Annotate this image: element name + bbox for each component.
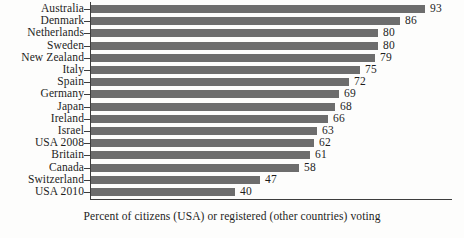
bar — [91, 78, 349, 86]
bar — [91, 103, 335, 111]
bar-value-label: 75 — [365, 63, 377, 76]
category-label: Ireland — [0, 112, 84, 125]
bar — [91, 5, 425, 13]
bar-value-label: 58 — [304, 161, 316, 174]
bar — [91, 42, 378, 50]
bar-value-label: 47 — [265, 173, 277, 186]
axis-tick — [84, 180, 91, 181]
bar-value-label: 66 — [333, 112, 345, 125]
bar-value-label: 80 — [383, 39, 395, 52]
bar — [91, 29, 378, 37]
bar — [91, 139, 314, 147]
axis-tick — [84, 168, 91, 169]
category-label: Netherlands — [0, 26, 84, 39]
axis-tick — [84, 46, 91, 47]
bar-value-label: 68 — [340, 100, 352, 113]
bar-value-label: 80 — [383, 26, 395, 39]
axis-tick — [84, 94, 91, 95]
axis-caption: Percent of citizens (USA) or registered … — [0, 210, 464, 222]
axis-tick — [84, 192, 91, 193]
axis-tick — [84, 107, 91, 108]
value-axis-baseline — [90, 199, 452, 200]
bar-value-label: 61 — [315, 148, 327, 161]
axis-tick — [84, 131, 91, 132]
bar-value-label: 79 — [380, 51, 392, 64]
category-label: Britain — [0, 148, 84, 161]
category-label: Canada — [0, 161, 84, 174]
bar — [91, 66, 360, 74]
category-label: Switzerland — [0, 173, 84, 186]
bar — [91, 17, 400, 25]
axis-tick — [84, 58, 91, 59]
category-label: USA 2008 — [0, 136, 84, 149]
category-label: Spain — [0, 75, 84, 88]
bar — [91, 176, 260, 184]
bar-value-label: 63 — [322, 124, 334, 137]
category-label: New Zealand — [0, 51, 84, 64]
category-label: Italy — [0, 63, 84, 76]
bar — [91, 188, 235, 196]
axis-tick — [84, 143, 91, 144]
bar-value-label: 72 — [354, 75, 366, 88]
axis-tick — [84, 21, 91, 22]
bar — [91, 127, 317, 135]
bar-chart: Australia93Denmark86Netherlands80Sweden8… — [0, 0, 464, 238]
bar-row: USA 201040 — [0, 187, 464, 199]
category-label: Japan — [0, 100, 84, 113]
category-label: USA 2010 — [0, 185, 84, 198]
category-label: Germany — [0, 87, 84, 100]
bar — [91, 90, 339, 98]
axis-tick — [84, 82, 91, 83]
bar — [91, 54, 375, 62]
category-label: Sweden — [0, 39, 84, 52]
bar — [91, 115, 328, 123]
axis-tick — [84, 9, 91, 10]
axis-tick — [84, 70, 91, 71]
bar-value-label: 69 — [344, 87, 356, 100]
bar-value-label: 93 — [430, 2, 442, 15]
axis-tick — [84, 155, 91, 156]
bar-value-label: 40 — [240, 185, 252, 198]
plot-area: Australia93Denmark86Netherlands80Sweden8… — [0, 0, 464, 205]
bar-value-label: 62 — [319, 136, 331, 149]
bar-value-label: 86 — [405, 14, 417, 27]
bar — [91, 151, 310, 159]
category-label: Australia — [0, 2, 84, 15]
axis-tick — [84, 119, 91, 120]
axis-tick — [84, 33, 91, 34]
bar — [91, 164, 299, 172]
category-label: Israel — [0, 124, 84, 137]
category-label: Denmark — [0, 14, 84, 27]
